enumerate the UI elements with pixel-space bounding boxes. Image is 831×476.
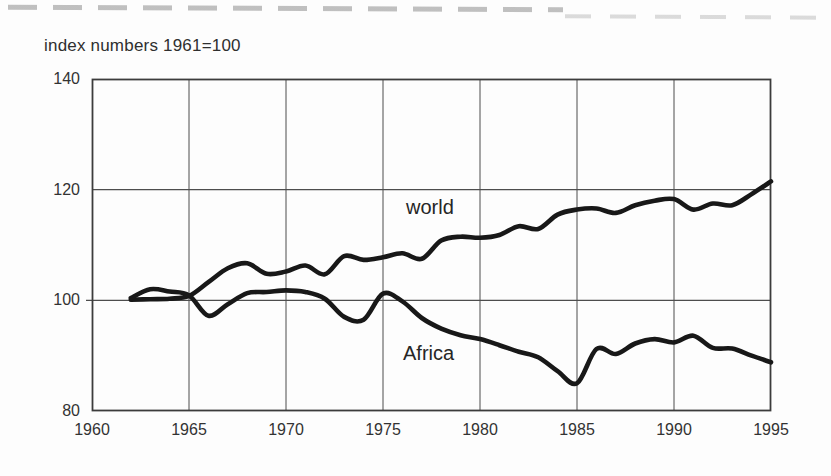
x-tick-label: 1995 — [743, 420, 799, 440]
line-chart-canvas — [0, 0, 831, 476]
series-line-africa — [131, 289, 771, 384]
x-tick-label: 1980 — [452, 420, 508, 440]
x-tick-label: 1970 — [258, 420, 314, 440]
x-tick-label: 1965 — [161, 420, 217, 440]
y-tick-label: 120 — [34, 180, 80, 200]
series-label-africa: Africa — [403, 342, 454, 364]
y-tick-label: 140 — [34, 69, 80, 89]
x-tick-label: 1985 — [549, 420, 605, 440]
figure-index-numbers-chart: index numbers 1961=100 14012010080 19601… — [0, 0, 831, 476]
series-label-world: world — [406, 196, 454, 218]
y-tick-label: 100 — [34, 290, 80, 310]
x-tick-label: 1960 — [64, 420, 120, 440]
x-tick-label: 1975 — [355, 420, 411, 440]
y-tick-label: 80 — [34, 401, 80, 421]
x-tick-label: 1990 — [646, 420, 702, 440]
